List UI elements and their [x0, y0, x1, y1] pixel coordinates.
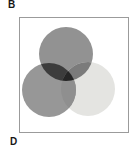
panel-label-b: B — [8, 0, 15, 10]
figure-panel: B — [0, 0, 140, 150]
panel-label-d: D — [10, 137, 17, 147]
figure-frame — [19, 17, 129, 133]
venn-diagram — [20, 18, 128, 132]
